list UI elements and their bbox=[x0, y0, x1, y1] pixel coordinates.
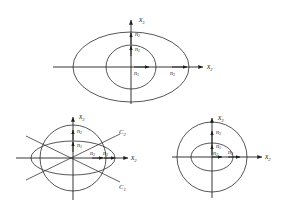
br-label-n2-horizontal: n2 bbox=[213, 149, 218, 157]
top-axis-label-x3: x3 bbox=[138, 15, 145, 25]
br-label-n3-horizontal: n3 bbox=[228, 148, 233, 156]
bl-label-n2-vertical: n2 bbox=[77, 127, 82, 135]
top-axis-label-x2: x2 bbox=[206, 62, 213, 72]
br-axis-label-x3: x3 bbox=[217, 113, 224, 123]
bl-label-n3-horizontal: n3 bbox=[103, 149, 108, 157]
bl-axis-label-x2: x2 bbox=[130, 153, 137, 163]
bl-curve-label-c2: C2 bbox=[119, 128, 127, 137]
br-label-n3-vertical: n3 bbox=[216, 128, 221, 136]
bl-axis-label-x3: x3 bbox=[78, 112, 85, 122]
bl-label-n1-vertical: n1 bbox=[77, 141, 82, 149]
top-label-n3-horizontal: n3 bbox=[170, 69, 175, 77]
br-label-n1-vertical: n1 bbox=[216, 142, 221, 150]
bottom-right-panel: x3 x2 n3 n1 n2 n3 bbox=[172, 113, 271, 198]
figure-canvas: x3 x2 n2 n1 n1 n3 x3 x bbox=[0, 0, 284, 221]
bl-label-n2-horizontal: n2 bbox=[90, 149, 95, 157]
br-axis-label-x2: x2 bbox=[264, 152, 271, 162]
top-panel: x3 x2 n2 n1 n1 n3 bbox=[53, 15, 213, 104]
bl-curve-label-c1: C1 bbox=[119, 183, 126, 192]
bottom-left-panel: x3 x2 n2 n1 n2 n3 C2 C1 bbox=[16, 112, 137, 200]
top-label-n1-horizontal: n1 bbox=[134, 69, 139, 77]
top-label-n2: n2 bbox=[135, 30, 140, 38]
